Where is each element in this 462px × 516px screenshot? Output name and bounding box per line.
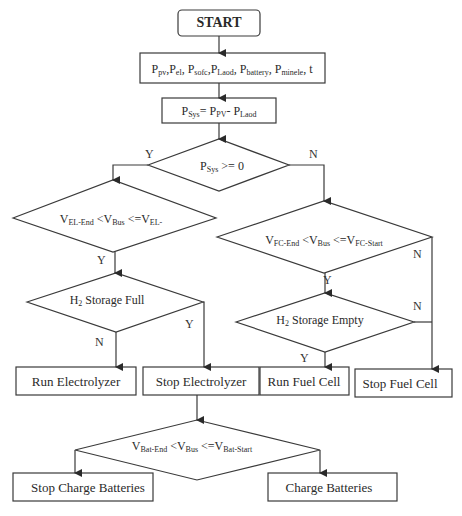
run-electrolyzer-label: Run Electrolyzer [32,375,120,388]
edge-label-h2full-yes: Y [185,318,194,330]
start-label: START [196,16,241,30]
edge-label-h2full-no: N [95,336,104,348]
edge-label-fc-yes: Y [323,274,332,286]
edge-psys-yes [113,165,148,180]
edge-label-psys-yes: Y [145,148,154,160]
h2-empty-label: H2 Storage Empty [276,314,363,328]
fc-voltage-label: VFC-End <VBus <=VFC-Start [265,234,383,248]
charge-batteries-label: Charge Batteries [286,481,373,494]
battery-voltage-label: VBat-End <VBus <=VBat-Start [132,440,252,454]
edge-label-psys-no: N [309,148,318,160]
stop-fuel-cell-label: Stop Fuel Cell [362,377,437,390]
h2-full-label: H2 Storage Full [70,294,145,308]
flowchart-canvas [0,0,462,516]
edge-label-h2empty-no: N [413,300,422,312]
el-voltage-label: VEL-End <VBus <=VEL- [60,213,163,227]
psys-label: PSys= PPV- PLaod [181,105,256,119]
inputs-label: Ppv,Pel, Psofc,PLaod, Pbattery, Pminele,… [151,63,312,77]
edge-label-el-yes: Y [97,254,106,266]
psys-decision-label: PSys >= 0 [200,160,244,174]
edge-label-h2empty-yes: Y [300,352,309,364]
stop-electrolyzer-label: Stop Electrolyzer [156,375,247,388]
edge-label-fc-no: N [413,248,422,260]
stop-charge-batteries-label: Stop Charge Batteries [31,481,145,494]
edge-h2full-yes [203,302,204,367]
edge-psys-no [289,165,324,201]
run-fuel-cell-label: Run Fuel Cell [268,375,341,388]
